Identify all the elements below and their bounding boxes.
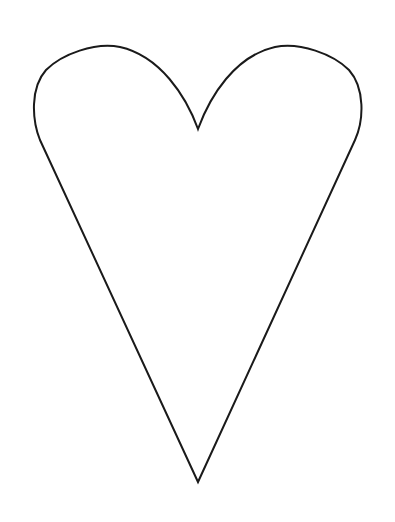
heart-path	[34, 46, 362, 482]
heart-outline-icon	[0, 0, 395, 522]
heart-canvas: Heart outline	[0, 0, 395, 522]
